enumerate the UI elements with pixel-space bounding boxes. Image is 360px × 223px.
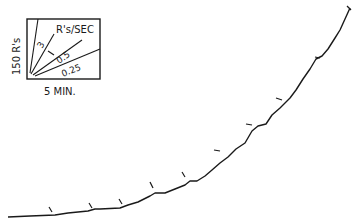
rate-label-05: 0.5 <box>54 49 71 65</box>
reinforcement-marks <box>49 6 351 212</box>
y-scale-label: 150 R's <box>11 38 22 75</box>
scale-key: R's/SEC 3 0.5 0.25 150 R's 5 MIN. <box>11 19 100 97</box>
rate-title: R's/SEC <box>56 24 94 35</box>
rate-tick-1 <box>48 51 54 55</box>
cumulative-record-chart: R's/SEC 3 0.5 0.25 150 R's 5 MIN. <box>0 0 360 223</box>
x-scale-label: 5 MIN. <box>44 86 76 97</box>
cumulative-curve <box>8 8 350 217</box>
rate-label-3: 3 <box>35 40 47 50</box>
